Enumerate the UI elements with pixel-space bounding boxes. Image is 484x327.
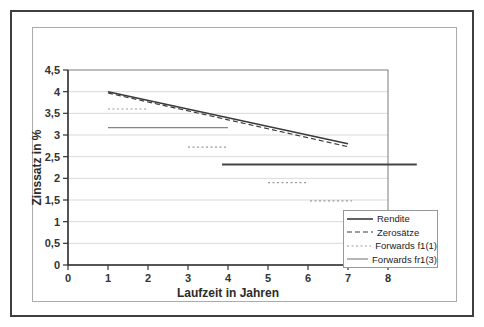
legend-swatch-forwards-f1-1-icon	[347, 242, 371, 250]
x-tick-label: 4	[225, 272, 232, 284]
y-tick-label: 2,5	[45, 151, 60, 163]
legend-swatch-rendite-icon	[347, 215, 373, 223]
series-line-zeros-tze	[108, 93, 348, 147]
y-tick-label: 4	[54, 86, 61, 98]
x-tick-label: 8	[385, 272, 391, 284]
legend-swatch-zeros-tze-icon	[347, 228, 373, 236]
x-tick-label: 3	[185, 272, 191, 284]
legend: RenditeZerosätzeForwards f1(1)Forwards f…	[343, 210, 438, 268]
y-tick-label: 3	[54, 129, 60, 141]
plot-border	[68, 70, 388, 265]
legend-item-forwards-fr1-3: Forwards fr1(3)	[347, 253, 437, 265]
legend-label: Forwards fr1(3)	[372, 254, 437, 265]
y-tick-label: 1,5	[45, 194, 60, 206]
legend-item-forwards-f1-1: Forwards f1(1)	[347, 240, 437, 252]
series-line-rendite	[108, 92, 348, 144]
x-tick-label: 7	[345, 272, 351, 284]
legend-swatch-forwards-fr1-3-icon	[347, 255, 368, 263]
legend-label: Zerosätze	[377, 227, 419, 238]
y-axis-title: Zinssatz in %	[30, 108, 45, 228]
legend-item-zeros-tze: Zerosätze	[347, 226, 437, 238]
y-tick-label: 3,5	[45, 107, 60, 119]
legend-label: Rendite	[377, 213, 410, 224]
legend-item-rendite: Rendite	[347, 213, 437, 225]
x-axis-title: Laufzeit in Jahren	[68, 286, 388, 301]
legend-label: Forwards f1(1)	[375, 240, 437, 251]
y-tick-label: 2	[54, 172, 60, 184]
x-tick-label: 5	[265, 272, 271, 284]
chart-plot: 00,511,522,533,544,5012345678	[0, 0, 484, 327]
x-tick-label: 2	[145, 272, 151, 284]
x-tick-label: 1	[105, 272, 111, 284]
y-tick-label: 4,5	[45, 64, 60, 76]
y-tick-label: 1	[54, 216, 60, 228]
x-tick-label: 6	[305, 272, 311, 284]
y-tick-label: 0	[54, 259, 60, 271]
figure: 00,511,522,533,544,5012345678 Laufzeit i…	[0, 0, 484, 327]
y-tick-label: 0,5	[45, 237, 60, 249]
x-tick-label: 0	[65, 272, 71, 284]
